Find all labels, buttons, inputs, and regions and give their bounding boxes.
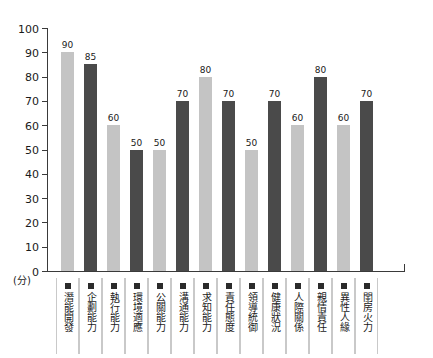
category-cell: 溝通能力 — [171, 278, 194, 354]
bar-column: 60 — [337, 125, 350, 271]
x-axis-line — [47, 271, 405, 272]
category-cell: 環境適應 — [125, 278, 148, 354]
bar-column: 70 — [268, 101, 281, 271]
bar-column: 80 — [314, 77, 327, 271]
y-axis-tick-mark: 10 — [42, 247, 47, 248]
bar-value-label: 70 — [361, 90, 372, 99]
bar — [176, 101, 189, 271]
legend-marker-icon — [157, 283, 163, 289]
bar-value-label: 50 — [246, 139, 257, 148]
category-label: 企劃能力 — [85, 292, 96, 332]
category-label: 潛能開發 — [62, 292, 73, 332]
y-axis-tick-label: 30 — [25, 193, 39, 204]
category-label: 異性人緣 — [338, 292, 349, 332]
category-cell: 人際關係 — [286, 278, 309, 354]
category-label-strip: 潛能開發企劃能力執行能力環境適應公關能力溝通能力求知能力責任態度領導統御健康狀況… — [47, 278, 405, 356]
legend-marker-icon — [364, 283, 370, 289]
category-label: 親情責任 — [315, 292, 326, 332]
y-axis-tick-mark: 100 — [42, 28, 47, 29]
bar — [268, 101, 281, 271]
y-axis-tick-mark: 50 — [42, 150, 47, 151]
bar-value-label: 70 — [177, 90, 188, 99]
category-label: 公關能力 — [154, 292, 165, 332]
bar-column: 50 — [245, 150, 258, 272]
bar — [360, 101, 373, 271]
legend-marker-icon — [111, 283, 117, 289]
bar — [107, 125, 120, 271]
bar — [84, 64, 97, 271]
y-axis-tick-label: 40 — [25, 169, 39, 180]
x-axis-end-cap — [404, 264, 405, 272]
bar — [245, 150, 258, 272]
bar-column: 60 — [291, 125, 304, 271]
category-label: 責任態度 — [223, 292, 234, 332]
legend-marker-icon — [272, 283, 278, 289]
y-axis-tick-label: 10 — [25, 242, 39, 253]
legend-marker-icon — [249, 283, 255, 289]
bar-column: 50 — [130, 150, 143, 272]
category-cell: 潛能開發 — [56, 278, 79, 354]
category-cell: 異性人緣 — [332, 278, 355, 354]
y-axis-tick-mark: 20 — [42, 222, 47, 223]
y-axis-tick-mark: 40 — [42, 174, 47, 175]
category-label: 溝通能力 — [177, 292, 188, 332]
category-label: 執行能力 — [108, 292, 119, 332]
y-axis-line — [47, 28, 48, 272]
legend-marker-icon — [134, 283, 140, 289]
bar-column: 70 — [222, 101, 235, 271]
y-axis-tick-label: 60 — [25, 120, 39, 131]
legend-marker-icon — [88, 283, 94, 289]
bar — [337, 125, 350, 271]
bar-value-label: 90 — [62, 41, 73, 50]
bar-chart: 1009080706050403020100 90856050507080705… — [0, 0, 433, 358]
bar-value-label: 50 — [154, 139, 165, 148]
y-axis-tick-label: 90 — [25, 47, 39, 58]
bar-value-label: 85 — [85, 53, 96, 62]
y-axis-tick-mark: 80 — [42, 77, 47, 78]
legend-marker-icon — [180, 283, 186, 289]
category-cell: 責任態度 — [217, 278, 240, 354]
bar — [153, 150, 166, 272]
bar — [130, 150, 143, 272]
plot-area: 1009080706050403020100 90856050507080705… — [47, 28, 405, 272]
category-label: 求知能力 — [200, 292, 211, 332]
bar — [61, 52, 74, 271]
bar — [199, 77, 212, 271]
y-axis-tick-mark: 70 — [42, 101, 47, 102]
category-label: 閨房火力 — [361, 292, 372, 332]
y-axis-unit-label: (分) — [13, 276, 31, 286]
bar-value-label: 70 — [269, 90, 280, 99]
legend-marker-icon — [65, 283, 71, 289]
y-axis-tick-label: 70 — [25, 96, 39, 107]
y-axis-tick-label: 0 — [32, 266, 39, 277]
bar-column: 85 — [84, 64, 97, 271]
category-cell: 閨房火力 — [355, 278, 378, 354]
category-label: 人際關係 — [292, 292, 303, 332]
category-label: 健康狀況 — [269, 292, 280, 332]
category-cell: 領導統御 — [240, 278, 263, 354]
legend-marker-icon — [341, 283, 347, 289]
bar-column: 50 — [153, 150, 166, 272]
category-cell: 親情責任 — [309, 278, 332, 354]
y-axis-tick-mark: 30 — [42, 198, 47, 199]
y-axis-tick-label: 20 — [25, 217, 39, 228]
bar-value-label: 70 — [223, 90, 234, 99]
legend-marker-icon — [295, 283, 301, 289]
bar-value-label: 50 — [131, 139, 142, 148]
y-axis-tick-label: 80 — [25, 72, 39, 83]
y-axis-tick-mark: 60 — [42, 125, 47, 126]
bar-value-label: 60 — [292, 114, 303, 123]
y-axis-tick-label: 50 — [25, 145, 39, 156]
category-cell: 公關能力 — [148, 278, 171, 354]
bar-column: 90 — [61, 52, 74, 271]
category-label: 環境適應 — [131, 292, 142, 332]
category-cell: 健康狀況 — [263, 278, 286, 354]
category-label: 領導統御 — [246, 292, 257, 332]
legend-marker-icon — [226, 283, 232, 289]
bar-column: 70 — [176, 101, 189, 271]
bar — [314, 77, 327, 271]
legend-marker-icon — [203, 283, 209, 289]
bar-value-label: 60 — [338, 114, 349, 123]
y-axis-tick-label: 100 — [18, 23, 39, 34]
bar — [222, 101, 235, 271]
